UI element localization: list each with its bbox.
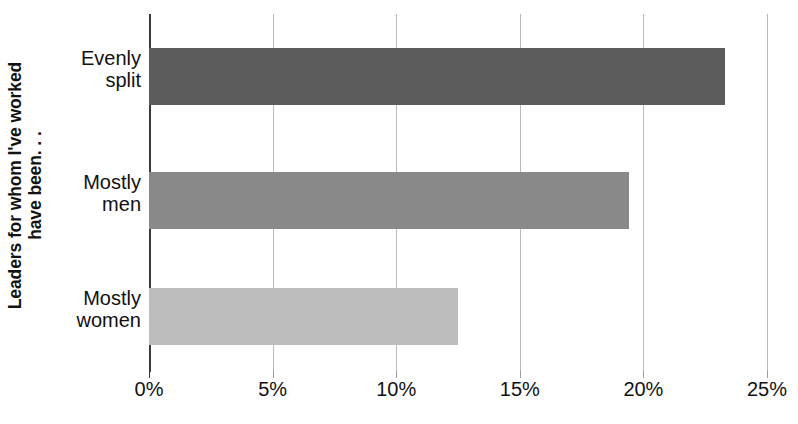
y-axis-title-line-1: Leaders for whom I've worked [6, 62, 26, 309]
bar-mostly-women [149, 288, 458, 345]
y-tick-label-evenly-split: Evenly split [29, 48, 141, 91]
y-tick-label-evenly-split-line-2: split [29, 70, 141, 92]
x-tick-label-10: 10% [376, 378, 416, 401]
bar-mostly-men [149, 172, 629, 229]
y-tick-label-evenly-split-line-1: Evenly [29, 48, 141, 70]
x-tick-mark-0 [149, 371, 150, 378]
x-tick-mark-20 [643, 371, 644, 378]
x-tick-mark-25 [767, 371, 768, 378]
y-tick-label-mostly-women: Mostly women [29, 288, 141, 331]
y-tick-label-mostly-women-line-2: women [29, 310, 141, 332]
x-tick-mark-5 [273, 371, 274, 378]
bar-evenly-split [149, 48, 725, 105]
y-tick-label-mostly-women-line-1: Mostly [29, 288, 141, 310]
x-axis-tick-labels: 0%5%10%15%20%25% [149, 378, 767, 410]
x-tick-label-15: 15% [500, 378, 540, 401]
y-tick-label-mostly-men: Mostly men [29, 172, 141, 215]
x-tick-mark-15 [520, 371, 521, 378]
plot-area [149, 14, 767, 372]
y-axis-tick-labels: Evenly split Mostly men Mostly women [29, 14, 141, 372]
x-tick-label-0: 0% [135, 378, 164, 401]
x-tick-label-5: 5% [258, 378, 287, 401]
x-tick-label-20: 20% [623, 378, 663, 401]
x-tick-mark-10 [396, 371, 397, 378]
chart-figure: Leaders for whom I've worked have been. … [0, 0, 798, 424]
y-tick-label-mostly-men-line-1: Mostly [29, 172, 141, 194]
y-tick-label-mostly-men-line-2: men [29, 194, 141, 216]
gridline-25 [767, 14, 768, 372]
x-tick-label-25: 25% [747, 378, 787, 401]
